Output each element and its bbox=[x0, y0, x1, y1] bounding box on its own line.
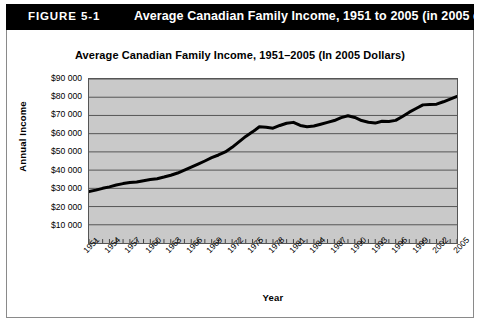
plot-area bbox=[88, 78, 458, 244]
y-axis-tick-label: $70 000 bbox=[24, 109, 82, 119]
x-axis-title: Year bbox=[88, 292, 458, 303]
y-axis-tick-label: $10 000 bbox=[24, 220, 82, 230]
y-axis-tick-label: $80 000 bbox=[24, 91, 82, 101]
y-axis-tick-label: $90 000 bbox=[24, 73, 82, 83]
figure-container: FIGURE 5-1 Average Canadian Family Incom… bbox=[0, 0, 480, 332]
y-axis-tick-labels: $90 000$80 000$70 000$60 000$50 000$40 0… bbox=[24, 0, 82, 332]
y-axis-tick-label: $20 000 bbox=[24, 202, 82, 212]
income-line-chart bbox=[89, 79, 457, 243]
figure-title-label: Average Canadian Family Income, 1951 to … bbox=[134, 9, 480, 23]
y-axis-tick-label: $50 000 bbox=[24, 146, 82, 156]
y-axis-tick-label: $30 000 bbox=[24, 183, 82, 193]
y-axis-tick-label: $60 000 bbox=[24, 128, 82, 138]
x-axis-tick-labels: 1951195419571960196319661969197219751978… bbox=[0, 248, 480, 282]
y-axis-tick-label: $40 000 bbox=[24, 165, 82, 175]
